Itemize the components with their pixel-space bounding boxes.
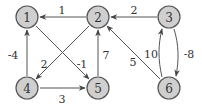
edge-label-6-3: 10 bbox=[144, 48, 158, 61]
node-1-label: 1 bbox=[23, 11, 31, 25]
graph-diagram: 1 2 -4 2 -1 7 3 5 10 -8 1 2 3 4 5 6 bbox=[0, 0, 202, 107]
node-3-label: 3 bbox=[165, 11, 173, 25]
edge-3-to-6 bbox=[174, 29, 178, 76]
edge-6-to-3 bbox=[159, 29, 162, 77]
node-6-label: 6 bbox=[165, 82, 173, 96]
edge-label-2-4: 2 bbox=[41, 58, 48, 71]
edge-label-4-1: -4 bbox=[8, 49, 19, 62]
node-6: 6 bbox=[158, 77, 180, 99]
node-4-label: 4 bbox=[23, 82, 31, 96]
edge-label-2-1: 1 bbox=[59, 4, 66, 17]
node-2: 2 bbox=[87, 6, 109, 28]
node-2-label: 2 bbox=[94, 11, 102, 25]
node-5: 5 bbox=[87, 77, 109, 99]
edge-label-3-2: 2 bbox=[131, 4, 138, 17]
edge-label-5-2: 7 bbox=[103, 49, 110, 62]
node-3: 3 bbox=[158, 6, 180, 28]
node-5-label: 5 bbox=[94, 82, 102, 96]
node-1: 1 bbox=[16, 6, 38, 28]
edge-label-4-5: 3 bbox=[59, 93, 66, 106]
node-4: 4 bbox=[16, 77, 38, 99]
edge-label-6-2: 5 bbox=[130, 56, 137, 69]
edge-label-1-5: -1 bbox=[77, 58, 88, 71]
edge-label-3-6: -8 bbox=[184, 48, 195, 61]
